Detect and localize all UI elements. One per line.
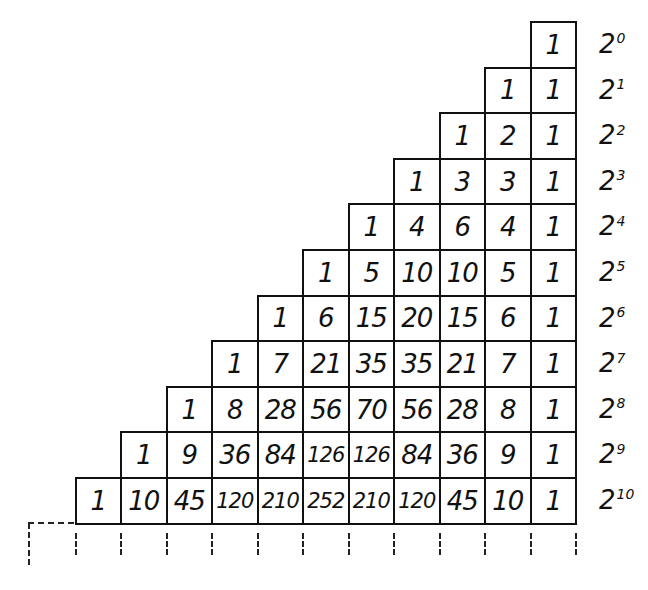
triangle-cell: 10 bbox=[120, 477, 168, 525]
power-base: 2 bbox=[599, 166, 616, 196]
power-label: 20 bbox=[599, 29, 625, 59]
power-exponent: 6 bbox=[617, 304, 626, 320]
triangle-cell: 1 bbox=[302, 249, 350, 297]
triangle-cell: 28 bbox=[439, 386, 487, 434]
power-base: 2 bbox=[599, 211, 616, 241]
triangle-cell: 1 bbox=[75, 477, 123, 525]
power-label: 22 bbox=[599, 120, 625, 150]
power-exponent: 5 bbox=[617, 258, 626, 274]
triangle-cell: 1 bbox=[348, 203, 396, 251]
power-base: 2 bbox=[599, 303, 616, 333]
triangle-cell: 4 bbox=[393, 203, 441, 251]
triangle-cell: 21 bbox=[302, 340, 350, 388]
triangle-cell: 1 bbox=[439, 112, 487, 160]
power-label: 26 bbox=[599, 303, 625, 333]
triangle-cell: 1 bbox=[530, 295, 578, 343]
triangle-cell: 120 bbox=[211, 477, 259, 525]
power-base: 2 bbox=[599, 348, 616, 378]
triangle-cell: 7 bbox=[484, 340, 532, 388]
continuation-tick bbox=[530, 533, 532, 555]
triangle-cell: 3 bbox=[484, 158, 532, 206]
power-base: 2 bbox=[599, 257, 616, 287]
continuation-tick bbox=[302, 533, 304, 555]
triangle-cell: 56 bbox=[302, 386, 350, 434]
triangle-cell: 6 bbox=[302, 295, 350, 343]
triangle-cell: 210 bbox=[348, 477, 396, 525]
triangle-cell: 36 bbox=[439, 431, 487, 479]
triangle-cell: 1 bbox=[530, 203, 578, 251]
triangle-cell: 8 bbox=[211, 386, 259, 434]
triangle-cell: 3 bbox=[439, 158, 487, 206]
triangle-cell: 1 bbox=[257, 295, 305, 343]
triangle-cell: 10 bbox=[393, 249, 441, 297]
continuation-left-tick bbox=[28, 523, 30, 565]
triangle-cell: 1 bbox=[484, 67, 532, 115]
triangle-cell: 1 bbox=[530, 158, 578, 206]
triangle-cell: 6 bbox=[484, 295, 532, 343]
power-base: 2 bbox=[599, 120, 616, 150]
power-label: 210 bbox=[599, 485, 634, 515]
triangle-cell: 1 bbox=[530, 249, 578, 297]
triangle-cell: 15 bbox=[439, 295, 487, 343]
triangle-cell: 7 bbox=[257, 340, 305, 388]
triangle-cell: 1 bbox=[530, 477, 578, 525]
continuation-tick bbox=[575, 533, 577, 555]
triangle-cell: 45 bbox=[166, 477, 214, 525]
triangle-cell: 1 bbox=[530, 112, 578, 160]
triangle-cell: 210 bbox=[257, 477, 305, 525]
triangle-cell: 36 bbox=[211, 431, 259, 479]
continuation-tick bbox=[484, 533, 486, 555]
power-exponent: 9 bbox=[617, 441, 626, 457]
triangle-cell: 126 bbox=[302, 431, 350, 479]
triangle-cell: 6 bbox=[439, 203, 487, 251]
triangle-cell: 1 bbox=[530, 67, 578, 115]
continuation-tick bbox=[120, 533, 122, 555]
continuation-tick bbox=[393, 533, 395, 555]
triangle-cell: 28 bbox=[257, 386, 305, 434]
power-label: 23 bbox=[599, 166, 625, 196]
triangle-cell: 1 bbox=[211, 340, 259, 388]
continuation-tick bbox=[439, 533, 441, 555]
continuation-tick bbox=[348, 533, 350, 555]
power-exponent: 10 bbox=[617, 486, 635, 502]
continuation-tick bbox=[75, 533, 77, 555]
continuation-tick bbox=[211, 533, 213, 555]
power-label: 28 bbox=[599, 394, 625, 424]
triangle-cell: 8 bbox=[484, 386, 532, 434]
power-base: 2 bbox=[599, 75, 616, 105]
triangle-cell: 35 bbox=[393, 340, 441, 388]
power-exponent: 2 bbox=[617, 122, 626, 138]
continuation-horizontal-dash bbox=[28, 522, 74, 524]
triangle-cell: 84 bbox=[393, 431, 441, 479]
triangle-cell: 1 bbox=[530, 21, 578, 69]
triangle-cell: 10 bbox=[484, 477, 532, 525]
triangle-cell: 5 bbox=[484, 249, 532, 297]
triangle-cell: 1 bbox=[530, 431, 578, 479]
power-label: 27 bbox=[599, 348, 625, 378]
triangle-cell: 1 bbox=[166, 386, 214, 434]
triangle-cell: 56 bbox=[393, 386, 441, 434]
power-base: 2 bbox=[599, 29, 616, 59]
triangle-cell: 4 bbox=[484, 203, 532, 251]
power-label: 29 bbox=[599, 439, 625, 469]
triangle-cell: 9 bbox=[166, 431, 214, 479]
triangle-cell: 84 bbox=[257, 431, 305, 479]
triangle-cell: 120 bbox=[393, 477, 441, 525]
power-label: 25 bbox=[599, 257, 625, 287]
power-exponent: 0 bbox=[617, 30, 626, 46]
triangle-cell: 21 bbox=[439, 340, 487, 388]
triangle-cell: 70 bbox=[348, 386, 396, 434]
triangle-cell: 1 bbox=[393, 158, 441, 206]
power-exponent: 7 bbox=[617, 350, 626, 366]
power-exponent: 4 bbox=[617, 213, 626, 229]
continuation-tick bbox=[166, 533, 168, 555]
triangle-cell: 1 bbox=[120, 431, 168, 479]
power-label: 24 bbox=[599, 211, 625, 241]
triangle-cell: 1 bbox=[530, 340, 578, 388]
triangle-cell: 5 bbox=[348, 249, 396, 297]
power-exponent: 3 bbox=[617, 167, 626, 183]
triangle-cell: 15 bbox=[348, 295, 396, 343]
triangle-cell: 45 bbox=[439, 477, 487, 525]
power-base: 2 bbox=[599, 394, 616, 424]
triangle-cell: 20 bbox=[393, 295, 441, 343]
